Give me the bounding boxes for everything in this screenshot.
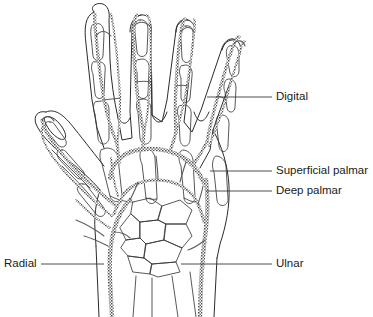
carpal-3: [120, 214, 140, 240]
common-digital-1: [117, 144, 119, 163]
ulna-shaft: [172, 276, 178, 317]
digital-artery-little-radial: [207, 37, 239, 142]
common-digital-3: [170, 132, 176, 151]
web-ring-little: [194, 112, 209, 121]
carpal-5: [164, 224, 192, 248]
carpal-branch-1: [114, 232, 130, 238]
labels-group: Digital Superficial palmar Deep palmar R…: [4, 90, 368, 269]
perforating-branch-4: [198, 186, 203, 204]
middle-distal-phalanx: [135, 20, 148, 57]
label-superficial-palmar: Superficial palmar: [276, 164, 368, 176]
common-digital-2: [143, 132, 144, 149]
middle-metacarpal: [140, 148, 157, 204]
diagram-canvas: Digital Superficial palmar Deep palmar R…: [0, 0, 373, 317]
arteries-group: [42, 14, 245, 317]
digital-artery-index-ulnar: [111, 14, 120, 144]
label-digital: Digital: [276, 90, 308, 102]
digital-cross-ring: [176, 85, 187, 86]
digital-cross-middle: [136, 81, 150, 82]
wrist-ulnar-edge: [214, 258, 217, 317]
carpal-7: [144, 240, 182, 264]
little-metacarpal: [213, 156, 229, 206]
radial-artery: [110, 200, 130, 317]
radius-shaft: [133, 276, 136, 317]
carpal-bones: [120, 198, 192, 277]
ring-proximal-phalanx: [178, 105, 192, 146]
ulnar-artery: [200, 180, 208, 317]
metacarpal-detail-2: [146, 198, 157, 199]
carpal-6: [121, 238, 146, 258]
digital-artery-middle-ulnar: [144, 15, 151, 132]
carpal-2: [158, 200, 192, 224]
carpal-9: [150, 262, 180, 277]
common-digital-4: [193, 142, 207, 165]
label-ulnar: Ulnar: [276, 257, 304, 269]
hand-artery-diagram: Digital Superficial palmar Deep palmar R…: [0, 0, 373, 317]
fingertip-arch-index: [96, 32, 111, 37]
thumb-outline: [35, 112, 100, 190]
digital-artery-middle-radial: [134, 15, 144, 132]
label-deep-palmar: Deep palmar: [276, 184, 342, 196]
carpal-8: [128, 256, 152, 274]
label-radial: Radial: [4, 257, 37, 269]
ulna-shaft-b: [190, 272, 196, 317]
wrist-radial-edge: [96, 246, 99, 317]
digital-cross-index: [104, 98, 120, 100]
thenar-line-2: [52, 150, 90, 188]
